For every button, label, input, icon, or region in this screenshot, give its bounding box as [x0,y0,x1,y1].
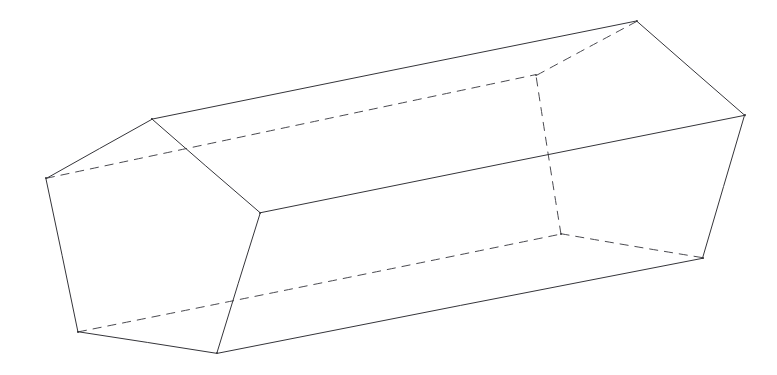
vertex-far-hidden-bottom [560,233,562,235]
visible-edge-far-C2-D2 [702,115,744,259]
face-fills [46,21,745,353]
vertex-far-bottom-right [702,257,704,259]
face-top-quad [152,21,745,213]
vertex-near-bottom-left [77,331,79,333]
vertex-far-top [636,20,638,22]
vertex-near-right [259,212,261,214]
vertex-far-right [744,114,746,116]
vertex-near-top [151,118,153,120]
vertex-near-bottom [216,352,218,354]
vertex-near-left [45,177,47,179]
prism-figure-canvas [0,0,777,375]
prism-wireframe-drawing [0,0,777,375]
vertex-far-hidden-top [535,74,537,76]
